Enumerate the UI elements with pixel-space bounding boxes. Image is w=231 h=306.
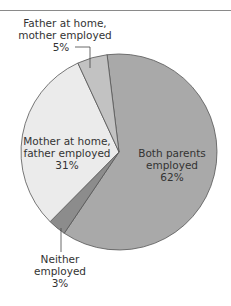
label-neither: Neither employed 3% xyxy=(30,253,90,289)
label-mother-at-home: Mother at home, father employed 31% xyxy=(22,135,112,171)
label-both-parents: Both parents employed 62% xyxy=(132,147,212,183)
label-father-at-home: Father at home, mother employed 5% xyxy=(10,17,120,53)
